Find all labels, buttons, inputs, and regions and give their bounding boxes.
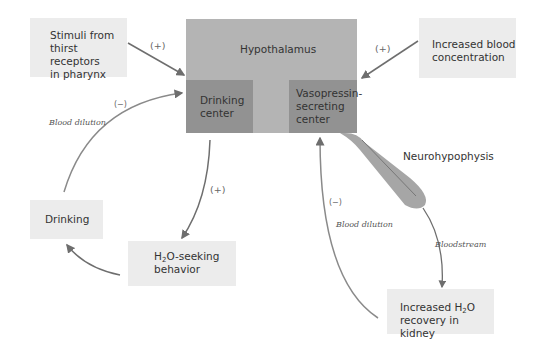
left-minus-label: (−) [114, 100, 127, 109]
left-blood-dilution-label: Blood dilution [49, 118, 106, 127]
h2o-seeking-pre: H [154, 250, 162, 262]
h2o-seeking-label: H2O-seeking behavior [154, 250, 219, 276]
stimuli-label: Stimuli from thirst receptors in pharynx [50, 29, 127, 81]
blood-concentration-label: Increased blood concentration [432, 38, 516, 64]
h2o-seeking-post: O-seeking [166, 250, 219, 262]
h2o-seeking-line1: H2O-seeking [154, 250, 219, 263]
h2o-recovery-label: Increased H2O recovery in kidney [400, 301, 494, 340]
right-minus-label: (−) [329, 198, 342, 207]
vasopressin-line3: center [296, 113, 362, 126]
stimuli-line3: in pharynx [50, 68, 127, 81]
h2o-recovery-line2: recovery in kidney [400, 314, 494, 340]
right-blood-dilution-label: Blood dilution [336, 220, 393, 229]
bloodstream-label: Bloodstream [435, 240, 486, 249]
drinking-center-box: Drinking center [186, 80, 253, 133]
vasopressin-center-box: Vasopressin- secreting center [289, 80, 357, 133]
h2o-recovery-box: Increased H2O recovery in kidney [387, 289, 494, 334]
blood-conc-plus-label: (+) [375, 43, 390, 54]
stimuli-line2: thirst receptors [50, 42, 127, 68]
drinking-center-plus-label: (+) [210, 184, 225, 195]
h2o-recovery-line1: Increased H2O [400, 301, 494, 314]
vasopressin-line1: Vasopressin- [296, 87, 362, 100]
h2o-recovery-post: O [467, 301, 475, 313]
drinking-center-label: Drinking center [200, 94, 244, 120]
arrow-seeking-to-drinking [67, 245, 120, 275]
stimuli-plus-label: (+) [150, 40, 165, 51]
neurohypophysis-shape [340, 133, 426, 209]
blood-conc-line2: concentration [432, 51, 516, 64]
stimuli-box: Stimuli from thirst receptors in pharynx [30, 18, 127, 77]
stimuli-line1: Stimuli from [50, 29, 127, 42]
vasopressin-line2: secreting [296, 100, 362, 113]
hypothalamus-label: Hypothalamus [240, 43, 316, 55]
blood-conc-line1: Increased blood [432, 38, 516, 51]
neurohypophysis-label: Neurohypophysis [403, 150, 494, 162]
h2o-recovery-pre: Increased H [400, 301, 462, 313]
drinking-center-line1: Drinking [200, 94, 244, 107]
vasopressin-center-label: Vasopressin- secreting center [296, 87, 362, 126]
h2o-seeking-line2: behavior [154, 263, 219, 276]
h2o-seeking-box: H2O-seeking behavior [128, 241, 236, 286]
drinking-label: Drinking [45, 213, 89, 226]
drinking-center-line2: center [200, 107, 244, 120]
arrow-center-to-seeking [182, 140, 210, 238]
drinking-box: Drinking [30, 200, 103, 239]
blood-concentration-box: Increased blood concentration [419, 18, 516, 78]
